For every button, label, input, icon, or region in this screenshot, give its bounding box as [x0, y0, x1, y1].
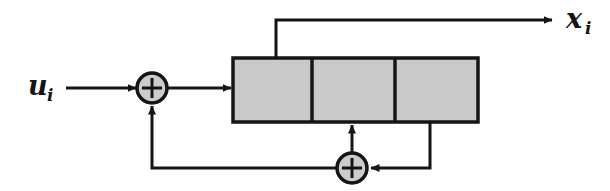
output-tap-path: [276, 20, 552, 58]
right-feedback-path: [371, 122, 430, 168]
diagram-canvas: u i x i: [0, 0, 610, 191]
output-label-subscript: i: [585, 18, 591, 38]
input-label-symbol: u: [28, 70, 48, 101]
summing-junction-top: [137, 73, 167, 103]
summing-junction-bottom: [337, 153, 367, 183]
connection-block-to-sum-bottom: [371, 122, 430, 168]
connection-block-tap-to-output: [276, 20, 552, 58]
output-label: x i: [565, 3, 591, 38]
input-label-subscript: i: [47, 85, 53, 105]
output-label-symbol: x: [565, 3, 583, 34]
input-label: u i: [28, 70, 53, 105]
delay-block: [233, 58, 478, 122]
block-diagram-figure: u i x i: [0, 0, 610, 191]
delay-block-body: [233, 58, 478, 122]
